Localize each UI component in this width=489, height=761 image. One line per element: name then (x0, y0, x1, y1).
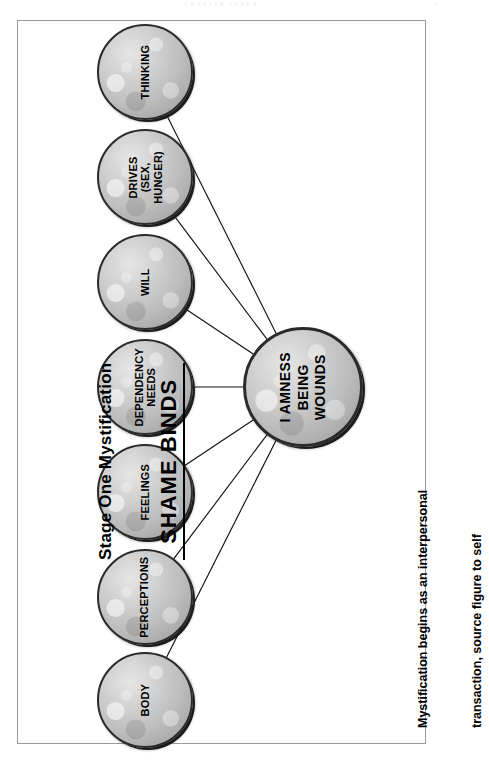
node-label: THINKING (139, 45, 151, 100)
node-drives[interactable]: DRIVES (SEX, HUNGER) (97, 129, 193, 225)
node-center-i-amness-being-wounds[interactable]: I AMNESS BEING WOUNDS (243, 327, 363, 447)
node-label: PERCEPTIONS (139, 556, 151, 637)
node-label: BODY (139, 684, 151, 717)
title-line-2: SHAME BINDS (156, 363, 185, 560)
title-line-1: Stage One Mystification (96, 363, 116, 560)
node-label: DRIVES (SEX, HUNGER) (127, 151, 164, 204)
center-node-label: I AMNESS BEING WOUNDS (277, 352, 330, 422)
node-label: FEELINGS (139, 464, 151, 521)
figure-caption: Mystification begins as an interpersonal… (378, 490, 489, 728)
caption-line-2: transaction, source figure to self (468, 490, 486, 728)
caption-line-1: Mystification begins as an interpersonal (414, 490, 432, 728)
node-will[interactable]: WILL (97, 234, 193, 330)
node-perceptions[interactable]: PERCEPTIONS (97, 549, 193, 645)
node-body[interactable]: BODY (97, 652, 193, 748)
node-label: WILL (139, 268, 151, 296)
node-thinking[interactable]: THINKING (97, 24, 193, 120)
node-label: DEPENDENCY NEEDS (133, 348, 158, 426)
